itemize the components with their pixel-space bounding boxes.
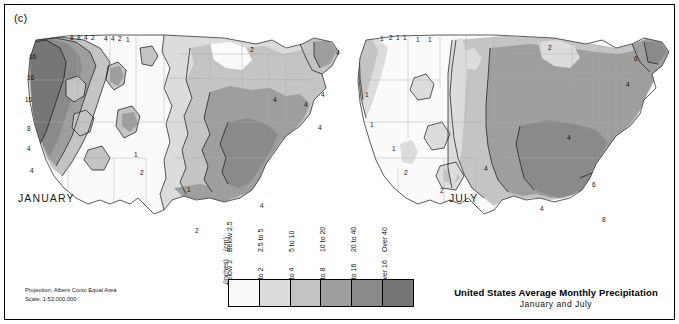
contour-label: 2 <box>404 170 408 177</box>
contour-label: 4 <box>336 50 340 57</box>
contour-label: 8 <box>77 35 81 42</box>
scale-line: Scale: 1:53,000,000 <box>25 295 117 304</box>
contour-label: 2 <box>195 228 199 235</box>
legend-swatch <box>229 280 260 306</box>
contour-label: 4 <box>321 92 325 99</box>
legend-swatch <box>352 280 383 306</box>
contour-label: 4 <box>104 36 108 43</box>
contour-label: 4 <box>111 36 115 43</box>
contour-label: 1 <box>428 37 432 44</box>
legend-label-cm: Below 2.5 <box>226 221 234 252</box>
contour-label: 8 <box>70 35 74 42</box>
contour-label: 2 <box>389 35 393 42</box>
contour-label: 4 <box>304 102 308 109</box>
contour-label: 2 <box>548 45 552 52</box>
contour-label: 4 <box>84 35 88 42</box>
contour-label: 4 <box>540 206 544 213</box>
contour-label: 1 <box>365 92 369 99</box>
contour-label: 4 <box>273 97 277 104</box>
projection-line: Projection: Albers Conic Equal Area <box>25 286 117 295</box>
contour-label: 4 <box>27 146 31 153</box>
legend-swatches <box>228 279 414 307</box>
contour-label: 4 <box>626 82 630 89</box>
contour-label: 6 <box>592 182 596 189</box>
legend-label-cm: 20 to 40 <box>350 227 358 252</box>
legend: (inches) (cm) Below 1Below 2.51 to 22.5 … <box>228 212 416 308</box>
map-july <box>344 18 674 218</box>
contour-label: 16 <box>27 75 34 82</box>
contour-label: 16 <box>25 97 32 104</box>
map-january-svg <box>14 18 344 218</box>
legend-label-cm: 10 to 20 <box>319 227 327 252</box>
contour-label: 4 <box>484 166 488 173</box>
map-title-block: United States Average Monthly Precipitat… <box>440 287 672 309</box>
page-subtitle: January and July <box>440 299 672 309</box>
contour-label: 2 <box>440 188 444 195</box>
contour-label: 4 <box>260 203 264 210</box>
contour-label: 4 <box>318 125 322 132</box>
contour-label: 4 <box>30 168 34 175</box>
month-label-january: JANUARY <box>18 192 75 204</box>
month-label-july: JULY <box>449 192 478 204</box>
contour-label: 1 <box>396 35 400 42</box>
contour-label: 2 <box>118 36 122 43</box>
legend-label-cm: 5 to 10 <box>288 231 296 252</box>
contour-label: 2 <box>91 35 95 42</box>
contour-label: 2 <box>250 47 254 54</box>
contour-label: 8 <box>27 126 31 133</box>
legend-swatch <box>383 280 413 306</box>
legend-swatch <box>321 280 352 306</box>
contour-label: 1 <box>403 35 407 42</box>
legend-swatch <box>291 280 322 306</box>
projection-note: Projection: Albers Conic Equal Area Scal… <box>25 286 117 304</box>
page-title: United States Average Monthly Precipitat… <box>440 287 672 298</box>
legend-label-cm: Over 40 <box>381 227 389 252</box>
contour-label: 1 <box>380 36 384 43</box>
contour-label: 6 <box>634 56 638 63</box>
contour-label: 1 <box>126 37 130 44</box>
contour-label: 1 <box>187 187 191 194</box>
contour-label: 8 <box>602 217 606 224</box>
contour-label: 2 <box>140 170 144 177</box>
legend-label-cm: 2.5 to 5 <box>257 229 265 252</box>
contour-label: 4 <box>567 135 571 142</box>
contour-label: 1 <box>370 122 374 129</box>
contour-label: 1 <box>392 146 396 153</box>
precipitation-figure: (c) <box>0 0 679 324</box>
map-july-svg <box>344 18 674 218</box>
legend-swatch <box>260 280 291 306</box>
contour-label: 1 <box>134 152 138 159</box>
contour-label: 1 <box>416 37 420 44</box>
contour-label: 16 <box>29 54 36 61</box>
map-january <box>14 18 344 218</box>
